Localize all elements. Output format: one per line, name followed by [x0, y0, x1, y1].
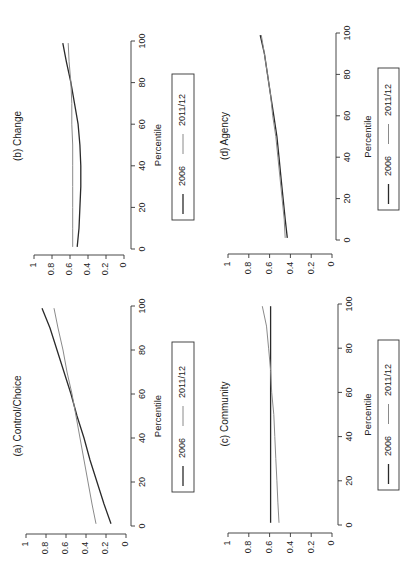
panel-agency: 020406080100Percentile00.20.40.60.81(d) … — [219, 25, 399, 274]
y-tick-label: 0 — [118, 262, 128, 267]
x-tick-label: 40 — [137, 161, 147, 171]
legend-label-2006: 2006 — [383, 156, 393, 176]
series-2011-12-line — [54, 308, 96, 524]
y-tick-label: 1 — [222, 261, 232, 266]
legend: 20062011/12 — [378, 68, 399, 210]
y-tick-label: 0.6 — [264, 541, 274, 554]
y-tick-label: 0 — [120, 541, 130, 546]
x-tick-label: 20 — [137, 202, 147, 212]
y-tick-label: 0.8 — [46, 263, 56, 276]
rotated-four-panel-line-chart: 020406080100Percentile00.20.40.60.81(a) … — [0, 0, 407, 568]
x-tick-label: 100 — [137, 298, 147, 313]
panel-control-choice: 020406080100Percentile00.20.40.60.81(a) … — [12, 298, 194, 554]
y-tick-label: 0.4 — [285, 541, 295, 554]
x-tick-label: 80 — [137, 345, 147, 355]
y-tick-label: 0 — [326, 261, 336, 266]
y-tick-label: 0.2 — [100, 263, 110, 276]
x-tick-label: 80 — [342, 69, 352, 79]
series-2011-12-line — [261, 35, 285, 238]
y-tick-label: 0.8 — [243, 262, 253, 275]
x-axis-title: Percentile — [362, 393, 373, 435]
x-tick-label: 20 — [344, 476, 354, 486]
panel-title: (d) Agency — [219, 112, 230, 160]
x-tick-label: 60 — [137, 119, 147, 129]
y-tick-label: 0 — [326, 540, 336, 545]
x-tick-label: 60 — [344, 387, 354, 397]
x-tick-label: 40 — [344, 432, 354, 442]
y-tick-label: 1 — [20, 541, 30, 546]
y-tick-label: 0.6 — [264, 262, 274, 275]
x-tick-label: 20 — [342, 194, 352, 204]
x-tick-label: 20 — [137, 477, 147, 487]
y-tick-label: 0.4 — [285, 262, 295, 275]
legend: 20062011/12 — [172, 74, 194, 220]
x-tick-label: 0 — [344, 522, 354, 527]
x-axis-title: Percentile — [362, 115, 373, 157]
x-axis-title: Percentile — [152, 124, 163, 166]
legend-label-2011-12: 2011/12 — [177, 366, 187, 398]
x-tick-label: 40 — [137, 433, 147, 443]
y-tick-label: 0.2 — [306, 262, 316, 275]
y-tick-label: 0.4 — [82, 263, 92, 276]
x-tick-label: 100 — [137, 33, 147, 48]
figure-canvas: 020406080100Percentile00.20.40.60.81(a) … — [0, 0, 407, 568]
series-2006-line — [63, 43, 81, 247]
x-tick-label: 100 — [342, 25, 352, 40]
panel-title: (c) Community — [219, 381, 230, 446]
legend: 20062011/12 — [378, 340, 399, 490]
x-tick-label: 0 — [342, 237, 352, 242]
y-tick-label: 0.8 — [243, 541, 253, 554]
panel-community: 020406080100Percentile00.20.40.60.81(c) … — [219, 296, 399, 553]
y-tick-label: 0.4 — [80, 542, 90, 555]
legend: 20062011/12 — [172, 342, 194, 492]
y-tick-label: 1 — [28, 262, 38, 267]
x-tick-label: 60 — [137, 389, 147, 399]
y-tick-label: 1 — [222, 540, 232, 545]
y-tick-label: 0.8 — [40, 542, 50, 555]
x-tick-label: 0 — [137, 246, 147, 251]
y-tick-label: 0.2 — [100, 542, 110, 555]
legend-label-2011-12: 2011/12 — [383, 364, 393, 396]
x-tick-label: 0 — [137, 523, 147, 528]
legend-label-2011-12: 2011/12 — [177, 94, 187, 126]
x-tick-label: 80 — [344, 343, 354, 353]
x-tick-label: 100 — [344, 296, 354, 311]
y-tick-label: 0.6 — [60, 542, 70, 555]
panel-title: (b) Change — [12, 111, 23, 161]
legend-label-2006: 2006 — [177, 438, 187, 458]
legend-label-2011-12: 2011/12 — [383, 84, 393, 116]
x-axis-title: Percentile — [152, 395, 163, 437]
panel-title: (a) Control/Choice — [12, 375, 23, 457]
y-tick-label: 0.2 — [306, 541, 316, 554]
x-tick-label: 40 — [342, 152, 352, 162]
legend-label-2006: 2006 — [177, 166, 187, 186]
panel-change: 020406080100Percentile00.20.40.60.81(b) … — [12, 33, 194, 275]
x-tick-label: 60 — [342, 111, 352, 121]
x-tick-label: 80 — [137, 78, 147, 88]
y-tick-label: 0.6 — [64, 263, 74, 276]
legend-label-2006: 2006 — [383, 436, 393, 456]
